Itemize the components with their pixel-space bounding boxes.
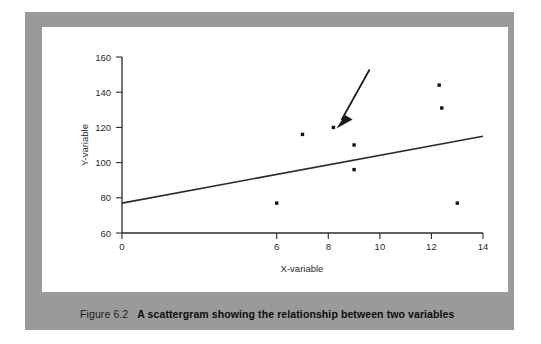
arrow-head-icon [336, 115, 352, 129]
chart-axes [122, 57, 483, 233]
y-tick-label-80: 80 [100, 192, 111, 203]
figure-caption: Figure 6.2 A scattergram showing the rel… [25, 297, 514, 330]
scatter-chart: 160 140 120 100 80 60 0 [42, 27, 508, 292]
x-axis-title: X-variable [281, 263, 324, 274]
figure-screenshot: 160 140 120 100 80 60 0 [0, 0, 541, 344]
y-tick-label-60: 60 [100, 228, 111, 239]
data-point [440, 106, 443, 109]
caption-figure-title: A scattergram showing the relationship b… [137, 308, 454, 320]
y-axis-title: Y-variable [79, 124, 90, 166]
x-tick-label-14: 14 [478, 241, 489, 252]
x-tick-label-8: 8 [326, 241, 331, 252]
data-point [352, 143, 355, 146]
x-tick-label-10: 10 [375, 241, 386, 252]
annotation-arrow [336, 70, 369, 129]
scatter-points [275, 83, 459, 204]
data-point [301, 133, 304, 136]
y-tick-label-100: 100 [95, 157, 111, 168]
figure-panel: 160 140 120 100 80 60 0 [25, 12, 514, 330]
data-point [352, 168, 355, 171]
x-tick-label-6: 6 [274, 241, 279, 252]
plot-card: 160 140 120 100 80 60 0 [42, 27, 508, 292]
x-tick-label-12: 12 [426, 241, 437, 252]
x-axis-ticks: 0 6 8 10 12 14 [119, 233, 488, 252]
trend-line [122, 136, 483, 203]
y-tick-label-160: 160 [95, 52, 111, 63]
data-point [456, 201, 459, 204]
y-tick-label-120: 120 [95, 122, 111, 133]
data-point [275, 201, 278, 204]
y-axis-ticks: 160 140 120 100 80 60 [95, 52, 122, 239]
data-point [332, 126, 335, 129]
caption-figure-number: Figure 6.2 [80, 308, 128, 320]
arrow-shaft-icon [342, 70, 370, 121]
y-tick-label-140: 140 [95, 87, 111, 98]
x-tick-label-0: 0 [119, 241, 124, 252]
data-point [438, 83, 441, 86]
